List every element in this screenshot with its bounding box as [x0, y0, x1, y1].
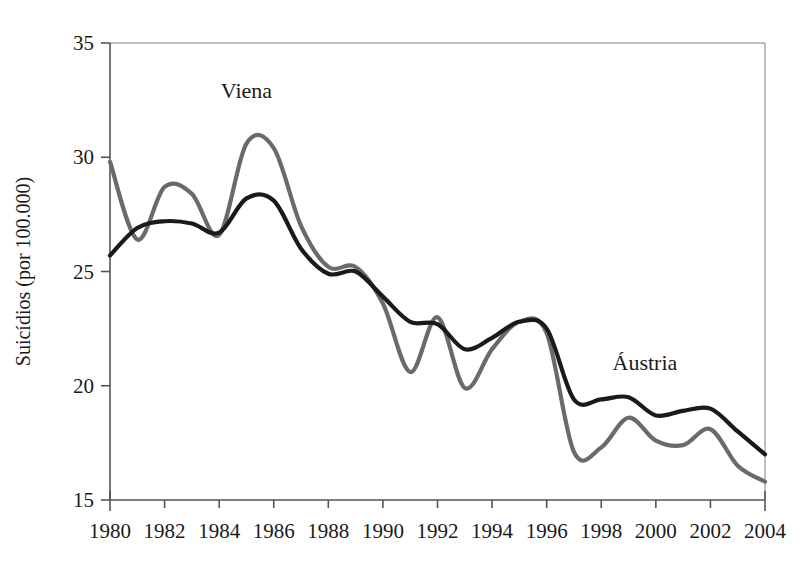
line-chart: 1520253035 19801982198419861988199019921… [0, 0, 809, 565]
x-tick-label: 2002 [689, 519, 731, 543]
x-tick-label: 1996 [526, 519, 568, 543]
y-axis-title: Suicídios (por 100.000) [12, 177, 35, 366]
y-tick-label: 20 [73, 374, 94, 398]
x-tick-label: 1984 [198, 519, 241, 543]
y-tick-label: 30 [73, 145, 94, 169]
x-tick-label: 2004 [744, 519, 787, 543]
x-tick-label: 1990 [362, 519, 404, 543]
y-tick-label: 25 [73, 260, 94, 284]
y-axis-title-text: Suicídios (por 100.000) [12, 177, 35, 366]
x-tick-label: 1992 [417, 519, 459, 543]
x-tick-label: 1980 [89, 519, 131, 543]
x-tick-label: 1994 [471, 519, 514, 543]
x-tick-label: 1988 [307, 519, 349, 543]
x-tick-label: 1998 [580, 519, 622, 543]
x-tick-label: 1982 [144, 519, 186, 543]
y-tick-label: 15 [73, 488, 94, 512]
chart-background [0, 0, 809, 565]
series-label-austria: Áustria [613, 350, 678, 375]
y-tick-label: 35 [73, 31, 94, 55]
x-tick-label: 1986 [253, 519, 295, 543]
chart-container: 1520253035 19801982198419861988199019921… [0, 0, 809, 565]
series-label-viena: Viena [221, 78, 272, 103]
x-tick-label: 2000 [635, 519, 677, 543]
